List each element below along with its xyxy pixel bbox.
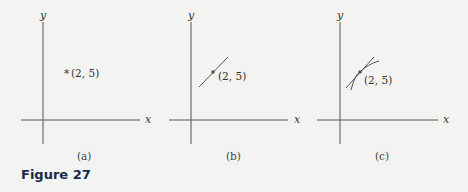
figure-27: y x * (2, 5) (a) y x (2, 5) (b) y x (2, … [0, 0, 468, 192]
panel-b: y x (2, 5) (b) [169, 9, 301, 162]
y-axis-label: y [39, 9, 47, 22]
point-label: (2, 5) [218, 70, 246, 82]
point-marker [358, 70, 362, 74]
panel-b-sublabel: (b) [226, 150, 241, 162]
point-marker: * [64, 67, 70, 79]
x-axis-label: x [443, 113, 450, 126]
x-axis-label: x [294, 113, 301, 126]
figure-caption: Figure 27 [21, 167, 91, 182]
point-marker [211, 70, 215, 74]
x-axis-label: x [145, 113, 152, 126]
panel-c: y x (2, 5) (c) [317, 9, 450, 162]
panel-c-sublabel: (c) [375, 150, 389, 162]
point-label: (2, 5) [71, 67, 99, 79]
y-axis-label: y [187, 9, 195, 22]
y-axis-label: y [336, 9, 344, 22]
point-label: (2, 5) [364, 74, 392, 86]
panel-a-sublabel: (a) [77, 150, 91, 162]
panel-a: y x * (2, 5) (a) [21, 9, 152, 162]
